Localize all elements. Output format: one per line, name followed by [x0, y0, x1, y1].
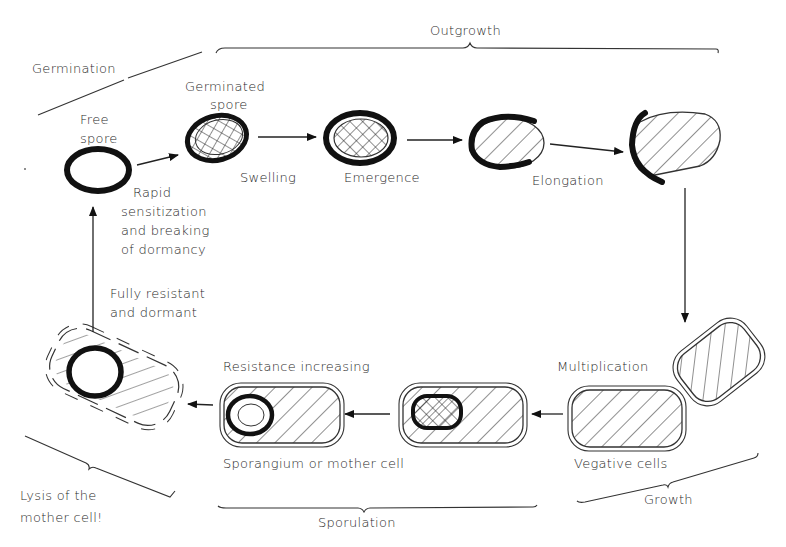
swollen-spore	[326, 113, 394, 163]
germinated-spore	[182, 109, 251, 167]
sporulation-bracket	[218, 505, 537, 512]
arrow-to-germinated	[137, 155, 178, 165]
swelling-label: Swelling	[240, 170, 296, 185]
rapid-label-line3: and breaking	[121, 223, 210, 238]
fully-resistant-label-line2: and dormant	[110, 305, 197, 320]
rapid-label-line1: Rapid	[133, 185, 171, 200]
emerging-cell	[471, 117, 544, 168]
sporangium-label: Sporangium or mother cell	[223, 456, 404, 471]
emergence-label: Emergence	[344, 170, 420, 185]
free-spore	[67, 149, 129, 191]
elongated-cell	[632, 112, 720, 182]
lysis-label-line2: mother cell!	[20, 510, 103, 525]
growth-label: Growth	[644, 492, 693, 507]
spore-life-cycle-diagram: Germination Outgrowth Lysis of the mothe…	[0, 0, 786, 547]
fully-resistant-label-line1: Fully resistant	[110, 286, 205, 301]
rapid-label-line4: of dormancy	[121, 242, 206, 257]
vegetative-cells-label: Vegative cells	[574, 456, 668, 471]
germinated-spore-label-line2: spore	[210, 97, 248, 112]
rapid-label-line2: sensitization	[121, 204, 207, 219]
multiplication-label: Multiplication	[557, 359, 648, 374]
lysing-mother-cell	[36, 315, 191, 439]
free-spore-label-line2: spore	[80, 131, 118, 146]
outgrowth-label: Outgrowth	[430, 23, 501, 38]
sporulation-label: Sporulation	[318, 515, 396, 530]
outgrowth-bracket	[216, 43, 718, 53]
lysis-label-line1: Lysis of the	[20, 488, 97, 503]
vegetative-cells	[568, 310, 773, 451]
sporangium	[220, 383, 344, 447]
resistance-increasing-label: Resistance increasing	[223, 359, 370, 374]
arrow-to-elongation	[550, 144, 623, 152]
early-sporangium	[399, 383, 527, 447]
elongation-label: Elongation	[532, 173, 604, 188]
germination-label: Germination	[32, 61, 116, 76]
arrow-to-lysis	[188, 404, 213, 405]
germinated-spore-label-line1: Germinated	[185, 79, 265, 94]
free-spore-label-line1: Free	[80, 112, 109, 127]
